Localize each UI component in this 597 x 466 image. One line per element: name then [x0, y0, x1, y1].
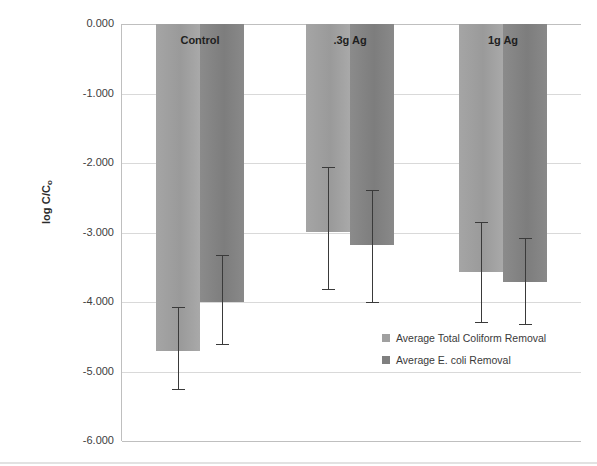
error-bar	[306, 167, 350, 290]
legend-item[interactable]: Average E. coli Removal	[382, 355, 546, 366]
error-bar	[156, 307, 200, 390]
error-bar-stem	[481, 222, 482, 323]
error-bar-cap-bottom	[366, 302, 379, 303]
y-tick-label: -3.000	[58, 226, 114, 238]
group-label: Control	[156, 34, 244, 46]
y-tick-label: -6.000	[58, 434, 114, 446]
legend-swatch-icon	[382, 356, 390, 364]
error-bar-cap-bottom	[475, 322, 488, 323]
y-tick-label: -1.000	[58, 87, 114, 99]
page-bottom-edge	[0, 462, 597, 464]
y-axis-title: log C/Co	[40, 162, 52, 242]
group-label: .3g Ag	[306, 34, 394, 46]
legend-swatch-icon	[382, 334, 390, 342]
bar-chart: log C/Co 0.000-1.000-2.000-3.000-4.000-5…	[0, 0, 597, 466]
group-label: 1g Ag	[459, 34, 547, 46]
gridline	[122, 441, 581, 442]
legend-item-label: Average Total Coliform Removal	[396, 333, 546, 344]
error-bar-stem	[328, 167, 329, 290]
chart-legend: Average Total Coliform RemovalAverage E.…	[382, 333, 546, 376]
error-bar-stem	[525, 238, 526, 325]
y-axis-tick-labels: 0.000-1.000-2.000-3.000-4.000-5.000-6.00…	[52, 0, 114, 466]
error-bar-stem	[178, 307, 179, 390]
legend-item-label: Average E. coli Removal	[396, 355, 511, 366]
bar	[156, 24, 200, 351]
y-axis-title-text: log C/C	[40, 185, 52, 224]
error-bar	[503, 238, 547, 325]
error-bar	[459, 222, 503, 323]
error-bar	[350, 190, 394, 303]
y-tick-label: -5.000	[58, 365, 114, 377]
error-bar-cap-bottom	[322, 289, 335, 290]
y-tick-label: -2.000	[58, 156, 114, 168]
error-bar-stem	[372, 190, 373, 303]
error-bar-cap-bottom	[519, 324, 532, 325]
error-bar-stem	[222, 255, 223, 345]
y-tick-label: 0.000	[58, 17, 114, 29]
y-tick-label: -4.000	[58, 295, 114, 307]
error-bar-cap-bottom	[172, 389, 185, 390]
legend-item[interactable]: Average Total Coliform Removal	[382, 333, 546, 344]
error-bar-cap-bottom	[216, 344, 229, 345]
plot-area: Control.3g Ag1g Ag	[121, 24, 580, 441]
error-bar	[200, 255, 244, 345]
